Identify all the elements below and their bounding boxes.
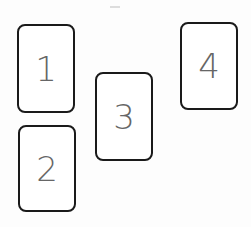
card-4[interactable]: 4 xyxy=(180,22,238,110)
card-1-label: 1 xyxy=(35,49,57,89)
faint-mark xyxy=(110,6,120,8)
card-3[interactable]: 3 xyxy=(95,72,153,161)
card-4-label: 4 xyxy=(198,46,220,86)
card-2[interactable]: 2 xyxy=(18,125,76,212)
card-2-label: 2 xyxy=(36,149,58,189)
card-3-label: 3 xyxy=(113,97,135,137)
card-1[interactable]: 1 xyxy=(17,24,75,113)
